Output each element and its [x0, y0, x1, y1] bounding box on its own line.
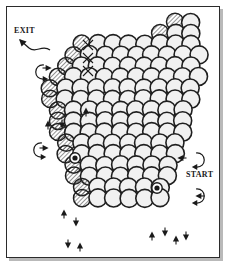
start-label: START [186, 170, 213, 179]
maze-diagram [0, 0, 230, 270]
exit-label: EXIT [14, 26, 35, 35]
diagram-page: EXIT START [0, 0, 230, 270]
circle-grid-layer [41, 13, 208, 207]
